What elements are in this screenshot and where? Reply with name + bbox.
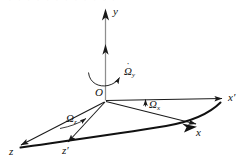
angular-velocity-label-omega-z: Ωz [66,113,77,126]
angular-velocity-label-omega-y: ˙Ωy [124,66,135,79]
axis-label-z-prime: z′ [62,145,69,156]
base-arc [21,103,221,148]
z-axis-line [21,102,105,145]
rotation-arc-y-path [89,73,120,86]
rotation-arc-y [89,73,120,86]
base-arc-arrowhead [182,124,197,133]
x-prime-axis-line [106,99,222,101]
diagram-canvas [0,0,247,165]
axis-label-x: x [196,127,201,138]
base-arc-group [21,103,221,148]
origin-label: O [95,87,103,98]
coordinate-frame-diagram: y x′ x z z′ O ˙Ωy Ωx Ωz · · · · · · · · … [0,0,247,165]
angular-velocity-label-omega-x: Ωx [149,99,160,112]
axis-label-x-prime: x′ [228,92,235,103]
clipped-header-text: · · · · · · · · · · · · [8,0,117,5]
clipped-header-strip: · · · · · · · · · · · · [0,0,247,9]
z-axis-group [21,102,105,145]
base-arc-arrow-x [182,124,197,133]
x-prime-axis-group [106,99,222,101]
axis-label-z: z [9,146,13,157]
